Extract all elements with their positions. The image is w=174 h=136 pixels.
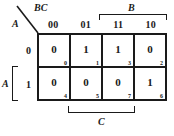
kmap-cell-4[interactable]: 0 4 xyxy=(39,68,69,99)
row-headers: 0 1 xyxy=(22,33,35,101)
row-variable-label: A xyxy=(12,19,19,29)
cell-index: 1 xyxy=(96,60,99,66)
cell-index: 2 xyxy=(160,60,163,66)
cell-value: 0 xyxy=(51,44,57,55)
cell-value: 0 xyxy=(83,77,89,88)
cell-index: 5 xyxy=(96,93,99,99)
kmap-cell-1[interactable]: 1 1 xyxy=(69,35,101,66)
kmap-cell-0[interactable]: 0 0 xyxy=(39,35,69,66)
karnaugh-map: BC A 00 01 11 10 0 1 0 0 1 1 1 3 xyxy=(0,0,174,136)
bracket-b-label: B xyxy=(128,3,135,13)
cell-index: 6 xyxy=(160,93,163,99)
column-header-11: 11 xyxy=(102,18,135,32)
column-header-00: 00 xyxy=(37,18,70,32)
bracket-c xyxy=(68,106,135,113)
cell-index: 3 xyxy=(128,60,131,66)
kmap-cell-2[interactable]: 0 2 xyxy=(133,35,165,66)
column-headers: 00 01 11 10 xyxy=(37,18,167,32)
column-header-01: 01 xyxy=(70,18,103,32)
row-header-1: 1 xyxy=(22,67,35,101)
cell-value: 1 xyxy=(115,44,121,55)
cell-value: 0 xyxy=(51,77,57,88)
kmap-cell-5[interactable]: 0 5 xyxy=(69,68,101,99)
column-variables-label: BC xyxy=(34,3,47,13)
bracket-a-label: A xyxy=(2,79,9,89)
kmap-row-1: 0 4 0 5 0 7 1 6 xyxy=(39,66,165,99)
kmap-cell-7[interactable]: 0 7 xyxy=(101,68,133,99)
cell-index: 0 xyxy=(64,60,67,66)
cell-index: 7 xyxy=(128,93,131,99)
kmap-cell-6[interactable]: 1 6 xyxy=(133,68,165,99)
column-header-10: 10 xyxy=(135,18,168,32)
cell-index: 4 xyxy=(64,93,67,99)
cell-value: 0 xyxy=(147,44,153,55)
bracket-a xyxy=(12,66,18,101)
kmap-row-0: 0 0 1 1 1 3 0 2 xyxy=(39,35,165,66)
cell-value: 1 xyxy=(147,77,153,88)
row-header-0: 0 xyxy=(22,33,35,67)
kmap-cell-3[interactable]: 1 3 xyxy=(101,35,133,66)
kmap-grid: 0 0 1 1 1 3 0 2 0 4 0 5 xyxy=(37,33,167,101)
cell-value: 1 xyxy=(83,44,89,55)
bracket-b xyxy=(99,14,167,20)
bracket-c-label: C xyxy=(98,117,105,127)
cell-value: 0 xyxy=(115,77,121,88)
